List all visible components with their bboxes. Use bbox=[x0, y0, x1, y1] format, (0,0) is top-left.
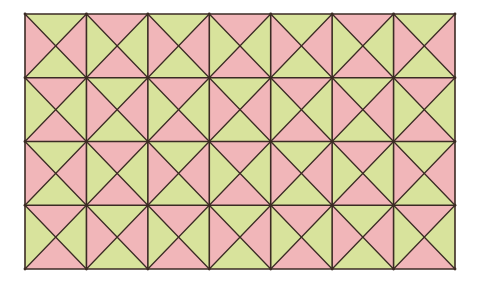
vertex-dot bbox=[85, 204, 88, 207]
vertex-dot bbox=[269, 140, 272, 143]
vertex-dot bbox=[24, 140, 27, 143]
vertex-dot bbox=[24, 76, 27, 79]
vertex-dot bbox=[208, 204, 211, 207]
vertex-dot bbox=[454, 268, 457, 271]
vertex-dot bbox=[146, 140, 149, 143]
vertex-dot bbox=[24, 268, 27, 271]
vertex-dot bbox=[331, 13, 334, 16]
vertex-dot bbox=[269, 204, 272, 207]
vertex-dot bbox=[85, 76, 88, 79]
triangle-tiling-diagram bbox=[0, 0, 487, 287]
vertex-dot bbox=[146, 76, 149, 79]
vertex-dot bbox=[146, 13, 149, 16]
vertex-dot bbox=[146, 268, 149, 271]
vertex-dot bbox=[331, 76, 334, 79]
vertex-dot bbox=[269, 268, 272, 271]
vertex-dot bbox=[208, 268, 211, 271]
vertex-dot bbox=[392, 13, 395, 16]
vertex-dot bbox=[85, 140, 88, 143]
vertex-dot bbox=[392, 76, 395, 79]
vertex-dot bbox=[392, 140, 395, 143]
vertex-dot bbox=[269, 76, 272, 79]
vertex-dot bbox=[331, 140, 334, 143]
vertex-dot bbox=[208, 140, 211, 143]
vertex-dot bbox=[331, 268, 334, 271]
vertex-dot bbox=[85, 13, 88, 16]
vertex-dot bbox=[454, 140, 457, 143]
vertex-dot bbox=[146, 204, 149, 207]
vertex-dot bbox=[24, 204, 27, 207]
vertex-dot bbox=[331, 204, 334, 207]
vertex-dot bbox=[269, 13, 272, 16]
vertex-dot bbox=[392, 268, 395, 271]
vertex-dot bbox=[392, 204, 395, 207]
vertex-dot bbox=[208, 76, 211, 79]
vertex-dot bbox=[24, 13, 27, 16]
vertex-dot bbox=[85, 268, 88, 271]
vertex-dot bbox=[454, 13, 457, 16]
vertex-dot bbox=[454, 76, 457, 79]
vertex-dot bbox=[454, 204, 457, 207]
vertex-dot bbox=[208, 13, 211, 16]
